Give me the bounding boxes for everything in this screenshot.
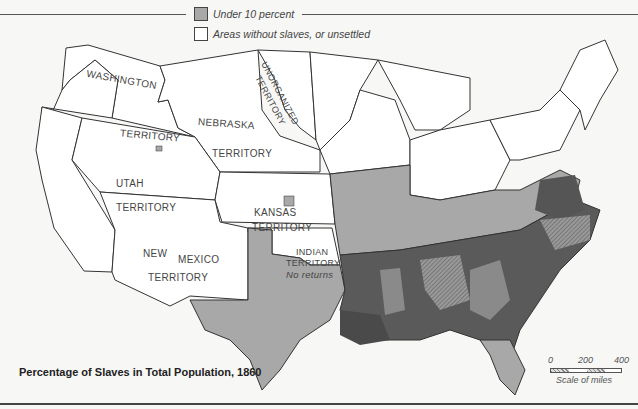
label-utah-sub: TERRITORY — [116, 202, 176, 213]
scale-bar: 0 200 400 Scale of miles — [548, 353, 634, 393]
label-kansas: KANSAS — [254, 207, 296, 218]
label-indian: INDIAN — [296, 247, 328, 257]
ohio-indiana-illinois — [410, 120, 510, 200]
florida — [480, 340, 525, 395]
label-kansas-sub: TERRITORY — [252, 222, 312, 233]
label-indian-sub: TERRITORY — [286, 258, 340, 268]
map-title: Percentage of Slaves in Total Population… — [19, 366, 261, 378]
label-indian-note: No returns — [286, 269, 333, 280]
scale-caption: Scale of miles — [556, 375, 612, 385]
scale-tick-0: 0 — [548, 355, 553, 365]
scale-tick-200: 200 — [578, 355, 593, 365]
label-new-mexico-sub: TERRITORY — [148, 272, 208, 283]
label-nebraska-sub: TERRITORY — [212, 148, 272, 159]
label-utah: UTAH — [116, 178, 144, 189]
utah-patch — [156, 146, 162, 151]
scale-bar-graphic — [550, 368, 622, 373]
bottom-rule — [0, 403, 638, 405]
us-map — [0, 0, 638, 409]
kansas-patch — [284, 196, 294, 206]
label-new-mexico-a: NEW — [143, 248, 167, 259]
label-new-mexico-b: MEXICO — [178, 254, 219, 265]
scale-tick-400: 400 — [614, 355, 629, 365]
